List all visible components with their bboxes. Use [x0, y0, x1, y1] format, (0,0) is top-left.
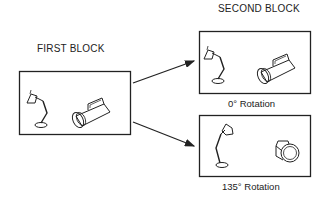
arrow-to-135-rotation: [133, 122, 194, 146]
desk-lamp-icon: [204, 46, 224, 84]
desk-lamp-icon: [27, 90, 47, 128]
flashlight-rotated-icon: [276, 141, 299, 162]
first-block: [20, 72, 131, 135]
flashlight-icon: [70, 98, 110, 129]
desk-lamp-rotated-icon: [216, 124, 233, 168]
rotation-0-panel: [200, 32, 311, 94]
rotation-135-panel: [200, 116, 311, 177]
diagram-canvas: [0, 0, 327, 198]
flashlight-icon: [255, 54, 295, 85]
arrow-to-0-rotation: [133, 61, 194, 83]
